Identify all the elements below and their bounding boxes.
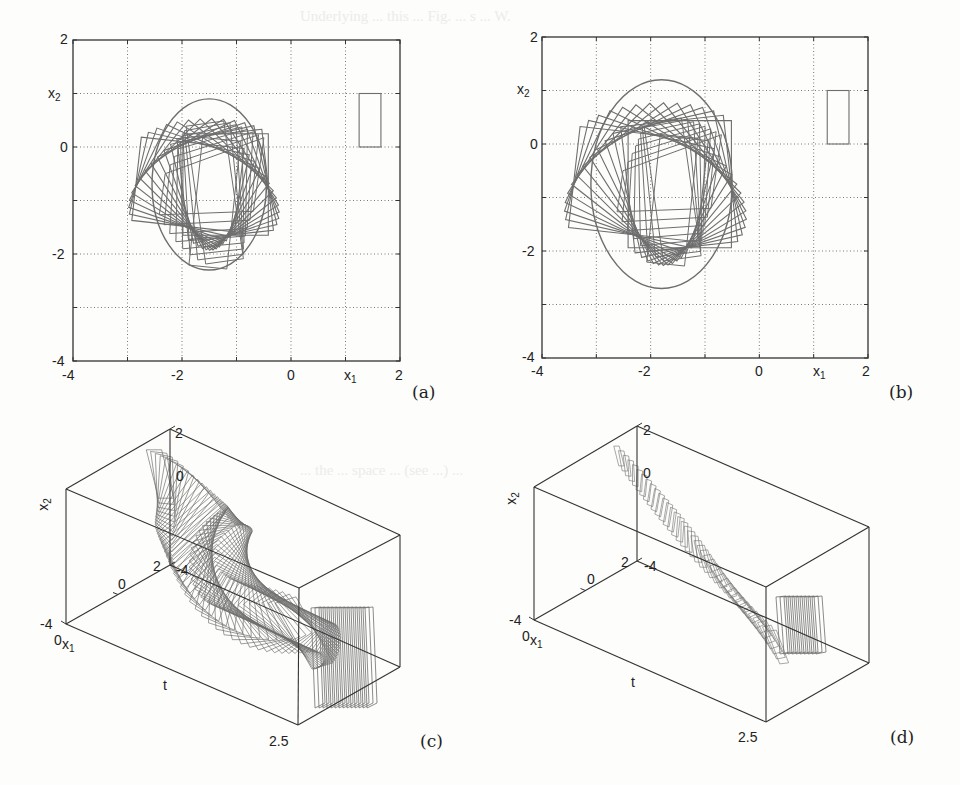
- xtick-label: -2: [171, 368, 183, 382]
- reference-rectangle: [827, 91, 849, 145]
- ytick-label: 0: [530, 137, 538, 151]
- plot-a: [73, 40, 400, 361]
- x2-top-tick: 2: [175, 426, 183, 440]
- x2-low-tick: -4: [644, 559, 656, 573]
- ylabel: x2: [517, 82, 530, 99]
- x1-mid-tick: 0: [587, 572, 595, 586]
- plot-d: [529, 423, 869, 722]
- x2-label: x2: [36, 498, 53, 511]
- ytick-label: -2: [52, 247, 64, 261]
- ylabel: x2: [48, 86, 61, 103]
- ytick-label: 2: [530, 30, 538, 44]
- t-end-tick: 2.5: [738, 730, 757, 744]
- ytick-label: -2: [522, 244, 534, 258]
- t-end-tick: 2.5: [269, 734, 288, 748]
- caption-b: (b): [889, 382, 913, 402]
- x1-mid-tick: 0: [118, 577, 126, 591]
- xlabel: x1: [344, 368, 357, 385]
- x2-zero-tick: 0: [643, 466, 651, 480]
- x1-label: x1: [530, 633, 543, 650]
- xtick-label: -2: [638, 364, 650, 378]
- ytick-label: -4: [522, 350, 534, 364]
- xtick-label: -4: [62, 368, 74, 382]
- caption-d: (d): [890, 727, 914, 747]
- xtick-label: 0: [755, 364, 763, 378]
- x2-top-tick: 2: [643, 423, 651, 437]
- x2-label: x2: [504, 492, 521, 505]
- x1-high-tick: 2: [621, 555, 629, 569]
- ytick-label: 0: [60, 140, 68, 154]
- t-label: t: [163, 678, 167, 692]
- caption-c: (c): [420, 731, 443, 751]
- xtick-label: 0: [287, 368, 295, 382]
- xtick-label: -4: [531, 364, 543, 378]
- x1-low-tick: -4: [40, 617, 52, 631]
- x1-label: x1: [62, 637, 75, 654]
- plot-c: [61, 426, 400, 725]
- ytick-label: -4: [52, 354, 64, 368]
- x1-low-tick: -4: [509, 613, 521, 627]
- t-start-tick: 0: [522, 629, 530, 643]
- xlabel: x1: [813, 364, 826, 381]
- ytick-label: 2: [60, 32, 68, 46]
- xtick-label: 2: [395, 368, 403, 382]
- figure-canvas: [0, 0, 960, 785]
- xtick-label: 2: [862, 364, 870, 378]
- reference-rectangle: [359, 94, 381, 148]
- x2-low-tick: -4: [176, 563, 188, 577]
- plot-b: [542, 37, 868, 358]
- x1-high-tick: 2: [153, 559, 161, 573]
- x2-zero-tick: 0: [176, 469, 184, 483]
- t-label: t: [631, 675, 635, 689]
- caption-a: (a): [412, 382, 435, 402]
- t-start-tick: 0: [54, 633, 62, 647]
